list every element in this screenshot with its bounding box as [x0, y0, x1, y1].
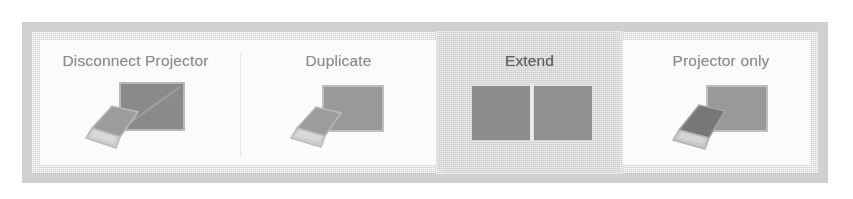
- screenshot-page: Disconnect Projector: [0, 0, 853, 199]
- option-duplicate[interactable]: Duplicate: [241, 31, 436, 174]
- option-label-extend: Extend: [505, 52, 554, 70]
- projection-mode-dialog: Disconnect Projector: [22, 22, 828, 183]
- option-disconnect-projector[interactable]: Disconnect Projector: [31, 31, 240, 174]
- option-projector-only[interactable]: Projector only: [623, 31, 819, 174]
- laptop-with-disconnected-monitor-icon: [76, 80, 196, 156]
- two-extended-screens-icon: [470, 84, 590, 160]
- option-label-duplicate: Duplicate: [306, 52, 372, 70]
- laptop-off-with-monitor-on-icon: [661, 80, 781, 156]
- laptop-with-duplicated-monitor-icon: [279, 80, 399, 156]
- projection-options-row: Disconnect Projector: [31, 31, 819, 174]
- option-extend[interactable]: Extend: [436, 31, 623, 174]
- option-label-projector-only: Projector only: [673, 52, 770, 70]
- option-label-disconnect-projector: Disconnect Projector: [62, 52, 208, 70]
